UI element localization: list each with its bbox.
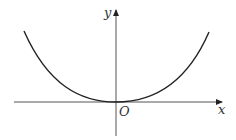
function-graph: y x O xyxy=(0,0,236,140)
y-axis-label: y xyxy=(103,5,112,20)
origin-label: O xyxy=(119,104,130,119)
x-axis-label: x xyxy=(218,102,226,117)
